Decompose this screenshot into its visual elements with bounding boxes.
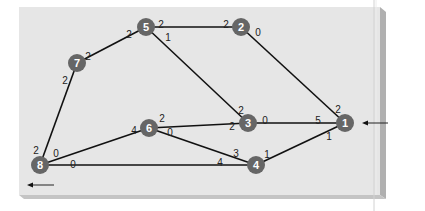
node-label: 2	[238, 21, 244, 33]
network-diagram: 12345678 2202221205220422030411	[0, 0, 425, 211]
node-label: 5	[143, 21, 149, 33]
weight-label-3-1-at-3: 0	[262, 115, 268, 126]
weight-label-3-1-at-1: 5	[315, 115, 321, 126]
node-8: 8	[31, 156, 49, 174]
node-label: 1	[342, 117, 348, 129]
weight-label-2-1-at-2: 0	[255, 27, 261, 38]
node-2: 2	[232, 18, 250, 36]
node-6: 6	[140, 119, 158, 137]
weight-label-8-7-at-8: 2	[33, 145, 39, 156]
weight-label-6-4-at-4: 3	[233, 148, 239, 159]
panel-shadow-bottom	[19, 195, 386, 199]
weight-label-6-4-at-6: 0	[167, 127, 173, 138]
weight-label-4-1-at-1: 1	[326, 131, 332, 142]
weight-label-6-3-at-3: 2	[229, 121, 235, 132]
node-7: 7	[68, 54, 86, 72]
node-5: 5	[137, 18, 155, 36]
node-3: 3	[239, 114, 257, 132]
weight-label-5-3-at-5: 1	[165, 32, 171, 43]
weight-label-2-1-at-1: 2	[335, 104, 341, 115]
weight-label-4-1-at-4: 1	[264, 149, 270, 160]
node-label: 8	[37, 159, 43, 171]
weight-label-8-6-at-8: 0	[53, 148, 59, 159]
diagram-canvas: 12345678 2202221205220422030411	[0, 0, 425, 211]
node-label: 7	[74, 57, 80, 69]
weight-label-8-4-at-4: 4	[217, 157, 223, 168]
weight-label-8-4-at-8: 0	[70, 159, 76, 170]
weight-label-6-3-at-6: 2	[159, 113, 165, 124]
node-label: 4	[253, 159, 260, 171]
weight-label-8-6-at-6: 4	[131, 125, 137, 136]
node-label: 6	[146, 122, 152, 134]
weight-label-5-2-at-2: 2	[223, 19, 229, 30]
weight-label-7-5-at-7: 2	[85, 51, 91, 62]
weight-label-5-3-at-3: 2	[238, 105, 244, 116]
weight-label-5-2-at-5: 2	[158, 19, 164, 30]
node-1: 1	[336, 114, 354, 132]
weight-label-7-5-at-5: 2	[126, 29, 132, 40]
node-label: 3	[245, 117, 251, 129]
node-4: 4	[247, 156, 265, 174]
panel-shadow-right	[380, 7, 386, 199]
weight-label-8-7-at-7: 2	[62, 75, 68, 86]
